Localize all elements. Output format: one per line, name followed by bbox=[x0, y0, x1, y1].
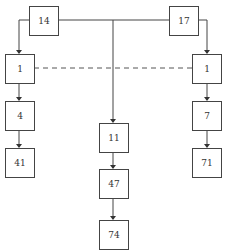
node-label: 11 bbox=[108, 133, 119, 143]
diagram-canvas: 141711441771114774 bbox=[0, 0, 226, 250]
node-label: 1 bbox=[17, 64, 23, 74]
arrowhead-icon bbox=[110, 165, 116, 169]
node-label: 1 bbox=[204, 64, 210, 74]
node-box-n47: 47 bbox=[100, 170, 129, 199]
node-label: 71 bbox=[201, 158, 212, 168]
node-label: 7 bbox=[204, 111, 210, 121]
node-box-n14: 14 bbox=[30, 7, 59, 36]
arrowhead-icon bbox=[16, 97, 22, 101]
arrowhead-icon bbox=[110, 216, 116, 220]
node-label: 14 bbox=[38, 16, 50, 26]
arrowhead-icon bbox=[110, 119, 116, 123]
edge-14-to-1-left bbox=[19, 20, 29, 53]
arrowhead-icon bbox=[204, 144, 210, 148]
node-box-n7: 7 bbox=[193, 102, 222, 131]
arrowhead-icon bbox=[204, 97, 210, 101]
node-box-n11: 11 bbox=[100, 124, 129, 153]
node-box-n1R: 1 bbox=[193, 55, 222, 84]
node-box-n41: 41 bbox=[6, 149, 35, 178]
arrowhead-icon bbox=[16, 50, 22, 54]
arrowhead-icon bbox=[204, 50, 210, 54]
node-label: 47 bbox=[108, 179, 120, 189]
node-box-n4: 4 bbox=[6, 102, 35, 131]
node-box-n71: 71 bbox=[193, 149, 222, 178]
node-box-n74: 74 bbox=[100, 221, 129, 250]
node-box-n1L: 1 bbox=[6, 55, 35, 84]
arrowhead-icon bbox=[16, 144, 22, 148]
node-label: 17 bbox=[178, 16, 190, 26]
node-label: 74 bbox=[108, 230, 120, 240]
node-box-n17: 17 bbox=[170, 7, 199, 36]
edge-17-to-1-right bbox=[198, 20, 207, 53]
node-label: 4 bbox=[17, 111, 23, 121]
node-label: 41 bbox=[14, 158, 25, 168]
